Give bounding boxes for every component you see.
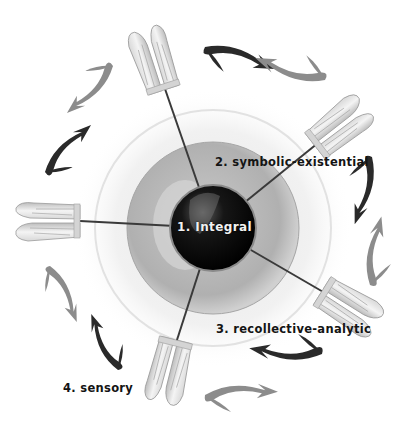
label-sensory: 4. sensory bbox=[63, 381, 133, 395]
hands-pair-icon bbox=[125, 23, 181, 96]
diagram: 1. Integral 2. symbolic-existential 3. r… bbox=[0, 0, 404, 433]
center-label: 1. Integral bbox=[177, 220, 252, 234]
arrow-pair-top-right bbox=[201, 43, 329, 83]
label-symbolic-existential: 2. symbolic-existential bbox=[215, 155, 369, 169]
hands-pair-icon bbox=[16, 203, 80, 241]
label-recollective-analytic: 3. recollective-analytic bbox=[216, 322, 371, 336]
